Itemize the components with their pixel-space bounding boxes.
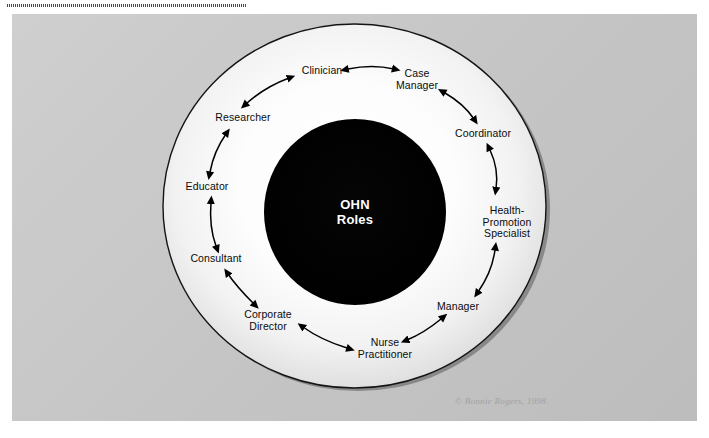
role-label-nurse-practitioner[interactable]: Nurse Practitioner: [358, 337, 412, 360]
top-dotted-rule: [7, 4, 247, 7]
role-label-manager[interactable]: Manager: [437, 301, 479, 313]
center-label-ohn-roles: OHN Roles: [337, 197, 373, 227]
role-label-clinician[interactable]: Clinician: [302, 65, 343, 77]
role-label-educator[interactable]: Educator: [186, 181, 229, 193]
role-label-coordinator[interactable]: Coordinator: [455, 128, 511, 140]
role-label-consultant[interactable]: Consultant: [190, 253, 241, 265]
role-label-researcher[interactable]: Researcher: [215, 112, 270, 124]
copyright-credit: © Bonnie Rogers, 1998.: [455, 396, 549, 406]
figure-page: Clinician Case Manager Coordinator Healt…: [0, 0, 709, 438]
role-label-corporate-director[interactable]: Corporate Director: [244, 309, 292, 332]
role-label-case-manager[interactable]: Case Manager: [396, 68, 438, 91]
role-label-health-promotion-specialist[interactable]: Health- Promotion Specialist: [483, 205, 532, 240]
